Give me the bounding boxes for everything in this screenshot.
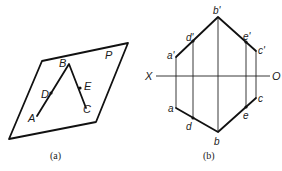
label-p: P [105, 49, 113, 61]
point-e-dot [78, 86, 81, 89]
label-e: E [84, 80, 92, 92]
label-b: b [214, 136, 220, 147]
label-e-prime: e' [243, 31, 252, 42]
figure-b: X O b' d' a' e' c' a d b e c (b) [144, 5, 281, 162]
label-d: d [186, 121, 192, 132]
label-c-prime: c' [258, 45, 266, 56]
projection-diagram: P B D E A C (a) X O b' d' a' e' c' a d b… [0, 0, 282, 171]
label-d: D [41, 88, 49, 100]
label-e: e [243, 110, 249, 121]
label-c: c [258, 93, 263, 104]
caption-b: (b) [203, 150, 215, 162]
label-d-prime: d' [186, 32, 195, 43]
axis-label-o: O [272, 70, 281, 82]
label-a-prime: a' [167, 50, 176, 61]
label-b-prime: b' [213, 5, 222, 16]
point-d-dot [49, 91, 52, 94]
label-a: A [27, 112, 35, 124]
figure-a: P B D E A C (a) [9, 43, 128, 162]
axis-label-x: X [144, 70, 153, 82]
caption-a: (a) [50, 150, 61, 162]
label-a: a [168, 103, 174, 114]
label-b: B [59, 57, 66, 69]
point-d-dot [191, 116, 194, 119]
point-e-dot [244, 105, 247, 108]
label-c: C [83, 103, 91, 115]
